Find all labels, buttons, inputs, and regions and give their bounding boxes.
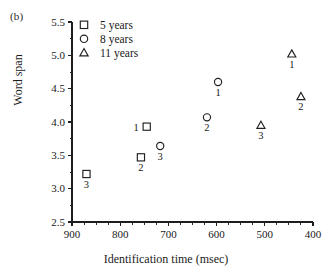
y-axis-tick-label: 5.0 bbox=[51, 49, 65, 61]
plot-canvas: 2.53.03.54.04.55.05.5900800700600500400 … bbox=[0, 0, 332, 279]
data-point-square-marker bbox=[143, 123, 150, 130]
data-point-label: 3 bbox=[158, 151, 163, 162]
x-axis-tick-label: 500 bbox=[257, 228, 274, 240]
data-points-group: 123123123 bbox=[83, 50, 305, 190]
y-axis-tick-label: 3.5 bbox=[51, 149, 65, 161]
data-point-label: 2 bbox=[204, 122, 209, 133]
legend-row: 8 years bbox=[76, 32, 138, 45]
data-point-square-marker bbox=[137, 154, 144, 161]
data-point-label: 2 bbox=[298, 101, 303, 112]
y-axis-tick-label: 4.5 bbox=[51, 82, 65, 94]
scatter-plot-figure: (b) Word span Identification time (msec)… bbox=[0, 0, 332, 279]
data-point-circle-marker bbox=[214, 78, 221, 85]
data-point-square-marker bbox=[83, 170, 90, 177]
x-axis-tick-label: 700 bbox=[160, 228, 177, 240]
y-axis-tick-label: 5.5 bbox=[51, 16, 65, 28]
x-axis-tick-label: 800 bbox=[112, 228, 129, 240]
x-axis-tick-label: 600 bbox=[208, 228, 225, 240]
circle-marker-icon bbox=[76, 32, 92, 45]
data-point-label: 3 bbox=[258, 130, 263, 141]
legend-row: 11 years bbox=[76, 46, 138, 59]
x-axis-tick-label: 900 bbox=[64, 228, 81, 240]
legend-row: 5 years bbox=[76, 18, 138, 31]
data-point-label: 1 bbox=[215, 87, 220, 98]
y-axis-tick-label: 2.5 bbox=[51, 216, 65, 228]
data-point-label: 1 bbox=[133, 122, 138, 133]
data-point-circle-marker bbox=[157, 142, 164, 149]
data-point-circle-marker bbox=[203, 114, 210, 121]
y-axis-tick-label: 3.0 bbox=[51, 182, 65, 194]
legend-label: 8 years bbox=[100, 33, 133, 45]
triangle-marker-icon bbox=[76, 46, 92, 59]
legend-label: 11 years bbox=[100, 47, 138, 59]
data-point-label: 3 bbox=[84, 179, 89, 190]
legend: 5 years8 years11 years bbox=[76, 18, 138, 59]
x-axis-tick-label: 400 bbox=[305, 228, 322, 240]
data-point-triangle-marker bbox=[257, 121, 265, 128]
square-marker-icon bbox=[76, 18, 92, 31]
data-point-triangle-marker bbox=[297, 93, 305, 100]
data-point-triangle-marker bbox=[288, 50, 296, 57]
legend-label: 5 years bbox=[100, 19, 133, 31]
data-point-label: 2 bbox=[138, 162, 143, 173]
y-axis-tick-label: 4.0 bbox=[51, 116, 65, 128]
data-point-label: 1 bbox=[289, 59, 294, 70]
